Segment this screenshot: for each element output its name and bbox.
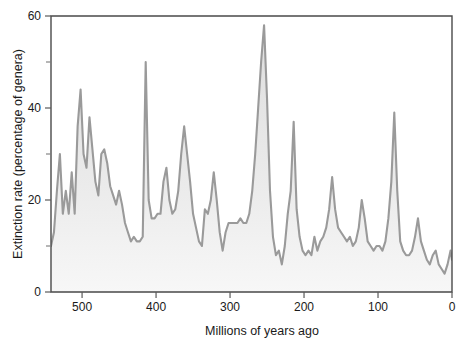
y-axis-minor-ticks (46, 62, 51, 246)
x-tick-label-0: 0 (449, 300, 456, 314)
x-axis-ticks (82, 292, 452, 298)
y-tick-label-60: 60 (28, 9, 42, 23)
x-tick-label-300: 300 (220, 300, 240, 314)
x-tick-label-400: 400 (146, 300, 166, 314)
x-tick-label-100: 100 (368, 300, 388, 314)
x-axis-title: Millions of years ago (205, 324, 319, 338)
extinction-rate-chart-figure: 0204060 5004003002001000 Extinction rate… (0, 0, 473, 348)
y-tick-label-20: 20 (28, 193, 42, 207)
x-axis-tick-labels: 5004003002001000 (72, 300, 456, 314)
y-axis-tick-labels: 0204060 (28, 9, 42, 299)
y-axis-title: Extinction rate (percentage of genera) (11, 49, 25, 259)
x-tick-label-200: 200 (294, 300, 314, 314)
y-tick-label-0: 0 (34, 285, 41, 299)
chart-canvas: 0204060 5004003002001000 Extinction rate… (0, 0, 473, 348)
y-tick-label-40: 40 (28, 101, 42, 115)
x-tick-label-500: 500 (72, 300, 92, 314)
